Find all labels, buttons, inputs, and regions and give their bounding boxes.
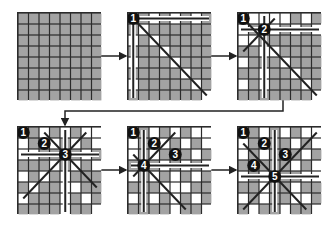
board-step-5: 1234: [127, 126, 211, 214]
board-cell: [150, 47, 159, 57]
board-cell: [302, 36, 311, 46]
board-cell: [40, 69, 49, 79]
svg-text:1: 1: [240, 127, 246, 138]
svg-text:5: 5: [272, 171, 278, 182]
board-cell: [92, 139, 101, 149]
board-cell: [291, 36, 300, 46]
queen-marker-4: 4: [137, 159, 150, 172]
board-cell: [160, 194, 169, 204]
board-cell: [29, 161, 38, 171]
board-cell: [171, 47, 180, 57]
board-cell: [181, 91, 190, 101]
board-cell: [29, 14, 38, 24]
board-cell: [312, 139, 321, 149]
board-cell: [312, 69, 321, 79]
board-cell: [192, 205, 201, 215]
board-cell: [192, 91, 201, 101]
board-cell: [192, 128, 201, 138]
board-cell: [139, 80, 148, 90]
board-cell: [50, 69, 59, 79]
board-cell: [202, 205, 211, 215]
board-cell: [29, 194, 38, 204]
board-cell: [270, 58, 279, 68]
board-cell: [150, 58, 159, 68]
board-cell: [92, 36, 101, 46]
board-cell: [129, 139, 138, 149]
board-cell: [281, 80, 290, 90]
board-cell: [171, 25, 180, 35]
board-cell: [150, 91, 159, 101]
board-cell: [239, 150, 248, 160]
board-cell: [92, 80, 101, 90]
board-cell: [202, 172, 211, 182]
board-cell: [92, 91, 101, 101]
board-cell: [92, 58, 101, 68]
board-cell: [71, 91, 80, 101]
board-cell: [181, 194, 190, 204]
board-cell: [19, 161, 28, 171]
board-cell: [29, 80, 38, 90]
board-cell: [92, 14, 101, 24]
board-cell: [50, 25, 59, 35]
queen-marker-3: 3: [59, 148, 72, 161]
board-cell: [192, 194, 201, 204]
board-step-3: 12: [237, 12, 321, 100]
board-cell: [40, 58, 49, 68]
board-cell: [71, 172, 80, 182]
board-cell: [19, 91, 28, 101]
board-cell: [181, 25, 190, 35]
board-cell: [312, 47, 321, 57]
board-cell: [92, 128, 101, 138]
board-cell: [50, 80, 59, 90]
board-cell: [312, 58, 321, 68]
board-cell: [139, 69, 148, 79]
board-cell: [239, 161, 248, 171]
board-cell: [29, 36, 38, 46]
board-cell: [71, 128, 80, 138]
board-cell: [270, 80, 279, 90]
board-cell: [192, 47, 201, 57]
board-cell: [19, 25, 28, 35]
board-cell: [171, 80, 180, 90]
board-cell: [82, 205, 91, 215]
board-cell: [40, 14, 49, 24]
board-cell: [260, 205, 269, 215]
svg-text:3: 3: [172, 149, 178, 160]
board-cell: [291, 80, 300, 90]
board-cell: [312, 205, 321, 215]
board-cell: [61, 36, 70, 46]
board-cell: [29, 25, 38, 35]
board-cell: [50, 14, 59, 24]
board-cell: [270, 91, 279, 101]
queen-marker-2: 2: [148, 137, 161, 150]
board-cell: [291, 128, 300, 138]
board-cell: [29, 172, 38, 182]
board-cell: [270, 36, 279, 46]
board-cell: [19, 139, 28, 149]
queen-marker-2: 2: [38, 137, 51, 150]
board-cell: [192, 69, 201, 79]
board-cell: [281, 69, 290, 79]
board-cell: [192, 150, 201, 160]
board-cell: [171, 205, 180, 215]
board-cell: [312, 150, 321, 160]
board-cell: [302, 161, 311, 171]
board-cell: [202, 36, 211, 46]
board-cell: [71, 58, 80, 68]
board-cell: [302, 150, 311, 160]
board-cell: [291, 205, 300, 215]
board-cell: [239, 183, 248, 193]
board-cell: [302, 69, 311, 79]
board-cell: [50, 128, 59, 138]
board-cell: [202, 25, 211, 35]
board-cell: [260, 150, 269, 160]
board-cell: [82, 161, 91, 171]
svg-text:2: 2: [151, 138, 157, 149]
board-cell: [260, 128, 269, 138]
board-cell: [249, 69, 258, 79]
svg-text:2: 2: [261, 24, 267, 35]
board-cell: [139, 91, 148, 101]
board-cell: [61, 47, 70, 57]
board-cell: [82, 58, 91, 68]
queen-marker-1: 1: [18, 127, 30, 139]
